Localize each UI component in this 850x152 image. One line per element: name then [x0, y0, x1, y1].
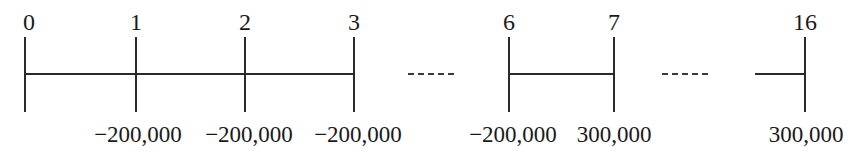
period-label: 3 — [348, 9, 360, 35]
cash-flow-label: −200,000 — [469, 122, 557, 147]
cash-flow-timeline: 0 1 2 3 6 7 16 −200,000 −200,000 −200,00… — [0, 0, 850, 152]
cash-flow-label: −200,000 — [314, 122, 402, 147]
period-label: 7 — [608, 9, 620, 35]
cash-flow-label: −200,000 — [94, 122, 182, 147]
cash-flow-label: 300,000 — [577, 122, 652, 147]
period-label: 16 — [793, 9, 817, 35]
cash-flow-label: 300,000 — [769, 122, 844, 147]
period-label: 2 — [239, 9, 251, 35]
period-label: 6 — [503, 9, 515, 35]
period-label: 1 — [130, 9, 142, 35]
cash-flow-label: −200,000 — [205, 122, 293, 147]
period-label: 0 — [23, 9, 35, 35]
